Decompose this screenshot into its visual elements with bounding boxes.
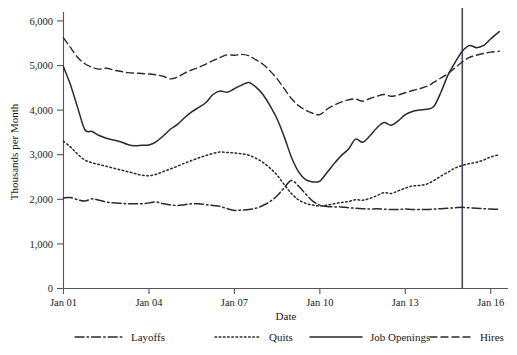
y-tick-label: 0 <box>48 283 53 294</box>
x-axis-title: Date <box>276 310 297 322</box>
y-tick-label: 4,000 <box>29 105 53 116</box>
x-tick-label: Jan 07 <box>221 297 248 308</box>
legend-label-job-openings[interactable]: Job Openings <box>370 331 430 343</box>
series-line-job-openings <box>64 32 500 183</box>
jolts-line-chart: Thousands per Month Date 01,0002,0003,00… <box>0 0 517 355</box>
y-tick-label: 1,000 <box>29 239 53 250</box>
plot-series-group <box>64 32 500 211</box>
y-tick-label: 5,000 <box>29 60 53 71</box>
x-axis-ticks: Jan 01Jan 04Jan 07Jan 10Jan 13Jan 16 <box>50 289 504 309</box>
y-tick-label: 2,000 <box>29 194 53 205</box>
x-tick-label: Jan 10 <box>306 297 333 308</box>
legend-label-hires[interactable]: Hires <box>480 331 504 343</box>
y-tick-label: 3,000 <box>29 149 53 160</box>
x-tick-label: Jan 01 <box>50 297 77 308</box>
chart-container: Thousands per Month Date 01,0002,0003,00… <box>0 0 517 355</box>
legend-label-quits[interactable]: Quits <box>269 331 293 343</box>
series-line-hires <box>64 38 500 115</box>
y-axis-ticks: 01,0002,0003,0004,0005,0006,000 <box>29 16 63 295</box>
legend-label-layoffs[interactable]: Layoffs <box>131 331 165 343</box>
chart-legend: LayoffsQuitsJob OpeningsHires <box>75 331 504 343</box>
x-tick-label: Jan 16 <box>477 297 504 308</box>
series-line-layoffs <box>64 181 500 211</box>
y-axis-title: Thousands per Month <box>8 103 20 200</box>
y-tick-label: 6,000 <box>29 16 53 27</box>
x-tick-label: Jan 13 <box>392 297 419 308</box>
series-line-quits <box>64 141 500 206</box>
x-tick-label: Jan 04 <box>135 297 163 308</box>
